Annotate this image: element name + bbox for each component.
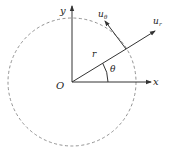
radial-unit-label: u r [153, 16, 162, 27]
origin-label: O [56, 80, 64, 91]
theta-label: θ [110, 64, 116, 74]
y-axis-label: y [59, 5, 66, 16]
x-axis-label: x [153, 76, 159, 87]
radius-label: r [92, 49, 97, 59]
transverse-unit-vector [105, 21, 126, 49]
radius-line [72, 49, 126, 82]
radial-unit-vector [126, 31, 155, 49]
transverse-unit-label: u θ [98, 9, 108, 20]
svg-text:r: r [159, 21, 162, 27]
svg-text:θ: θ [104, 14, 108, 20]
theta-arc [103, 63, 108, 82]
polar-diagram: y x O r θ u θ u r [0, 0, 169, 154]
